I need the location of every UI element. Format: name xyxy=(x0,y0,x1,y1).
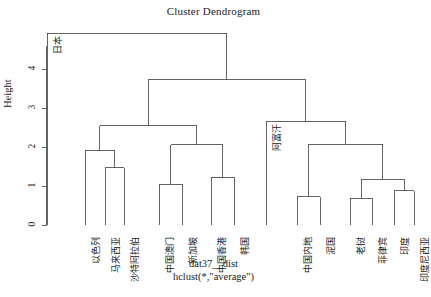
leaf-label: 日本 xyxy=(51,36,64,54)
leaf-label: 中国香港 xyxy=(215,237,228,273)
chart-title: Cluster Dendrogram xyxy=(0,5,427,17)
leaf-label: 印度 xyxy=(398,237,411,255)
y-tick-label: 1 xyxy=(27,178,37,192)
leaf-label: 印度尼西亚 xyxy=(418,237,431,282)
leaf-label: 新加坡 xyxy=(186,237,199,264)
y-tick-label: 4 xyxy=(27,61,37,75)
x-axis-label-secondary: hclust(*,"average") xyxy=(0,271,427,282)
leaf-label: 中国澳门 xyxy=(163,237,176,273)
leaf-label: 中国内地 xyxy=(301,237,314,273)
leaf-label: 以色列 xyxy=(89,237,102,264)
leaf-label: 韩国 xyxy=(238,237,251,255)
y-tick-label: 0 xyxy=(27,217,37,231)
leaf-label: 老挝 xyxy=(354,237,367,255)
y-tick-label: 2 xyxy=(27,139,37,153)
leaf-label: 菲律宾 xyxy=(376,237,389,264)
leaf-label: 阿富汗 xyxy=(270,124,283,151)
y-tick-label: 3 xyxy=(27,100,37,114)
leaf-label: 泥国 xyxy=(324,237,337,255)
x-axis-label-primary: dat37__dist xyxy=(0,258,427,269)
leaf-label: 沙特阿拉伯 xyxy=(128,237,141,282)
leaf-label: 马来西亚 xyxy=(109,237,122,273)
y-axis-label: Height xyxy=(2,79,13,108)
